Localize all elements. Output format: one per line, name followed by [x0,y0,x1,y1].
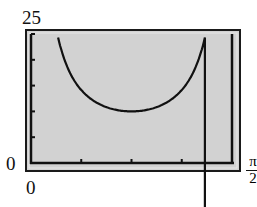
plot-frame [26,30,240,171]
x-min-label: 0 [26,178,36,197]
x-max-label: π 2 [246,154,257,186]
y-max-label: 25 [22,8,41,27]
graph-screen [0,0,257,207]
y-min-label: 0 [6,154,16,173]
